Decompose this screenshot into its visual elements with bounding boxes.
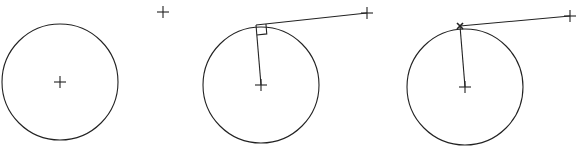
external-point-cross-icon xyxy=(157,6,169,18)
radius-line xyxy=(460,26,465,87)
panel-step-3 xyxy=(407,10,576,145)
tangent-construction-diagram xyxy=(0,0,576,150)
radius-line xyxy=(256,25,261,85)
tangent-line xyxy=(460,16,570,26)
tangent-line xyxy=(256,13,367,25)
right-angle-marker-icon xyxy=(257,24,267,35)
center-cross-icon xyxy=(54,76,66,88)
panel-step-2 xyxy=(203,7,373,143)
panel-step-1 xyxy=(2,6,169,140)
